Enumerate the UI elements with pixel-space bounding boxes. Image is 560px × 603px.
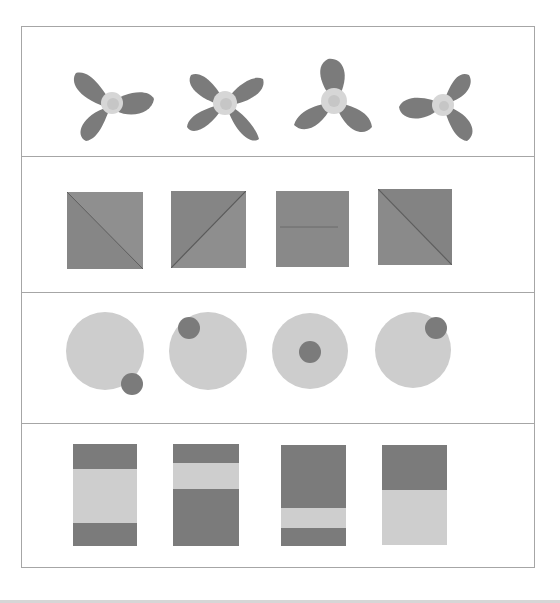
bar-dark-light-dark-icon (173, 444, 239, 546)
row-flowers (22, 27, 534, 157)
circle-2 (168, 307, 264, 403)
puzzle-frame (21, 26, 535, 568)
bar-3 (281, 445, 346, 546)
row-circles (22, 293, 534, 424)
flower-3-petal-icon (66, 57, 158, 149)
circle-dot-bottom-right-icon (64, 311, 160, 407)
circle-4 (374, 307, 470, 403)
circle-3 (271, 313, 367, 409)
square-3 (276, 191, 349, 267)
bar-dark-light-dark-icon (281, 445, 346, 546)
flower-3-petal-icon (397, 59, 489, 151)
bar-4 (382, 445, 447, 545)
square-diagonal-icon (378, 189, 452, 265)
row-squares (22, 157, 534, 293)
flower-1 (66, 57, 158, 149)
circle-dot-top-left-icon (168, 307, 264, 403)
bar-1 (73, 444, 137, 546)
bar-dark-light-dark-icon (73, 444, 137, 546)
square-diagonal-icon (67, 192, 143, 269)
square-1 (67, 192, 143, 269)
flower-4-petal-icon (179, 57, 271, 149)
square-2 (171, 191, 246, 268)
circle-dot-top-right-icon (374, 307, 470, 403)
bar-dark-light-icon (382, 445, 447, 545)
square-diagonal-icon (171, 191, 246, 268)
square-horizontal-line-icon (276, 191, 349, 267)
row-bars (22, 424, 534, 569)
square-4 (378, 189, 452, 265)
circle-dot-center-icon (271, 313, 367, 409)
bar-2 (173, 444, 239, 546)
flower-2 (179, 57, 271, 149)
circle-1 (64, 311, 160, 407)
flower-3 (288, 55, 380, 147)
flower-4 (397, 59, 489, 151)
flower-3-petal-icon (288, 55, 380, 147)
